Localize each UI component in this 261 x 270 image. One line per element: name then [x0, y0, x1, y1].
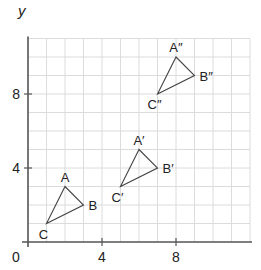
vertex-label: A: [61, 170, 70, 185]
origin-label: 0: [12, 249, 20, 265]
vertex-label: A″: [169, 40, 183, 55]
vertex-label: B″: [200, 69, 214, 84]
y-tick-label: 8: [12, 86, 20, 102]
coordinate-plane: 4848 ABCA′B′C′A″B″C″ y 0: [0, 0, 261, 270]
x-tick-label: 4: [98, 249, 106, 265]
x-tick-label: 8: [172, 249, 180, 265]
vertex-label: B: [89, 198, 98, 213]
vertex-label: B′: [163, 161, 175, 176]
vertex-label: C″: [148, 97, 162, 112]
vertex-label: C′: [112, 190, 124, 205]
vertex-label: A′: [133, 133, 145, 148]
y-tick-label: 4: [12, 160, 20, 176]
vertex-label: C: [39, 227, 48, 242]
y-axis-title: y: [17, 2, 27, 19]
